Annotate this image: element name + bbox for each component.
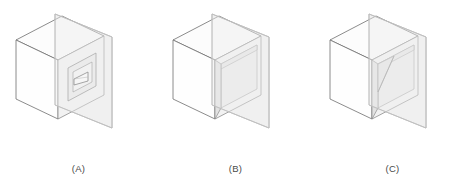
figure-c-drawing [314,0,471,165]
figure-c-geometry [330,14,426,128]
figure-panel-c: (C) [314,0,471,194]
figure-sheet: (A) (B) [0,0,472,194]
figure-b-geometry [173,14,269,128]
figure-panel-a: (A) [0,0,157,194]
figure-b-drawing [157,0,314,165]
figure-a-drawing [0,0,157,165]
figure-caption-c: (C) [314,163,471,174]
figure-caption-a: (A) [0,163,157,174]
figure-a-geometry [16,14,112,128]
figure-panel-b: (B) [157,0,314,194]
figure-caption-b: (B) [157,163,314,174]
